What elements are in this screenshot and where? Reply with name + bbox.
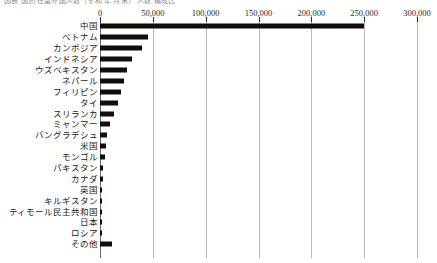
bar-row: ミャンマー bbox=[0, 119, 437, 130]
bar bbox=[100, 187, 102, 192]
bar-chart: 図表 国別 在留外国人数（令和 年 月末） 人数 構成比 050,000100,… bbox=[0, 0, 437, 263]
bar-row: ベトナム bbox=[0, 32, 437, 43]
bar bbox=[100, 46, 142, 51]
bar bbox=[100, 24, 364, 29]
category-label: 米国 bbox=[80, 142, 98, 151]
category-label: 中国 bbox=[80, 22, 98, 31]
bar-row: 中国 bbox=[0, 21, 437, 32]
bar-row: その他 bbox=[0, 239, 437, 250]
bar-row: 米国 bbox=[0, 141, 437, 152]
bar bbox=[100, 144, 106, 149]
bar bbox=[100, 133, 107, 138]
bar bbox=[100, 78, 124, 83]
bar-row: ウズベキスタン bbox=[0, 65, 437, 76]
category-label: 日本 bbox=[80, 218, 98, 227]
bar-row: パキスタン bbox=[0, 163, 437, 174]
category-label: パキスタン bbox=[53, 164, 98, 173]
bar bbox=[100, 57, 132, 62]
category-label: その他 bbox=[71, 240, 98, 249]
category-label: バングラデシュ bbox=[35, 131, 98, 140]
x-axis-tick-labels: 050,000100,000150,000200,000250,000300,0… bbox=[0, 8, 437, 20]
category-label: タイ bbox=[80, 98, 98, 107]
bar-row: モンゴル bbox=[0, 152, 437, 163]
bar-rows: 中国ベトナムカンボジアインドネシアウズベキスタンネパールフィリピンタイスリランカ… bbox=[0, 21, 437, 250]
bar-row: スリランカ bbox=[0, 108, 437, 119]
bar bbox=[100, 242, 112, 247]
bar bbox=[100, 89, 121, 94]
category-label: カンボジア bbox=[53, 44, 98, 53]
bar bbox=[100, 231, 102, 236]
category-label: 英国 bbox=[80, 185, 98, 194]
bar-row: ロシア bbox=[0, 228, 437, 239]
bar bbox=[100, 176, 103, 181]
bar-row: バングラデシュ bbox=[0, 130, 437, 141]
bar bbox=[100, 100, 118, 105]
bar-row: フィリピン bbox=[0, 86, 437, 97]
bar-row: カンボジア bbox=[0, 43, 437, 54]
cropped-header-text: 図表 国別 在留外国人数（令和 年 月末） 人数 構成比 bbox=[4, 0, 175, 5]
category-label: モンゴル bbox=[62, 153, 98, 162]
category-label: スリランカ bbox=[53, 109, 98, 118]
category-label: ベトナム bbox=[62, 33, 98, 42]
bar bbox=[100, 220, 102, 225]
category-label: インドネシア bbox=[44, 55, 98, 64]
bar bbox=[100, 209, 102, 214]
plot-area: 中国ベトナムカンボジアインドネシアウズベキスタンネパールフィリピンタイスリランカ… bbox=[0, 21, 437, 263]
bar-row: タイ bbox=[0, 97, 437, 108]
bar bbox=[100, 68, 127, 73]
bar bbox=[100, 111, 114, 116]
bar-row: カナダ bbox=[0, 173, 437, 184]
bar-row: インドネシア bbox=[0, 54, 437, 65]
cropped-header-strip: 図表 国別 在留外国人数（令和 年 月末） 人数 構成比 bbox=[0, 0, 437, 7]
bar-row: キルギスタン bbox=[0, 195, 437, 206]
category-label: ネパール bbox=[62, 76, 98, 85]
category-label: フィリピン bbox=[53, 87, 98, 96]
category-label: ティモール民主共和国 bbox=[9, 207, 98, 216]
category-label: ロシア bbox=[71, 229, 98, 238]
bar bbox=[100, 122, 110, 127]
category-label: キルギスタン bbox=[44, 196, 98, 205]
category-label: ミャンマー bbox=[53, 120, 98, 129]
bar-row: ティモール民主共和国 bbox=[0, 206, 437, 217]
bar bbox=[100, 198, 102, 203]
bar bbox=[100, 166, 103, 171]
bar-row: 英国 bbox=[0, 184, 437, 195]
bar bbox=[100, 35, 148, 40]
bar-row: ネパール bbox=[0, 75, 437, 86]
bar-row: 日本 bbox=[0, 217, 437, 228]
bar bbox=[100, 155, 105, 160]
category-label: ウズベキスタン bbox=[35, 66, 98, 75]
category-label: カナダ bbox=[71, 174, 98, 183]
